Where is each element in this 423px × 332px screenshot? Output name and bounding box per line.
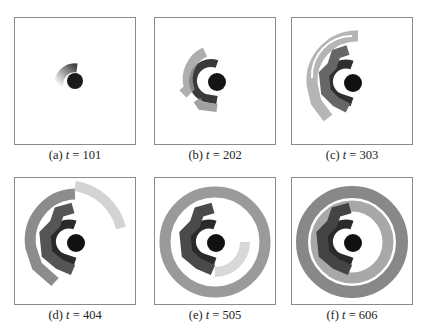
panel-caption: (d) t = 404: [4, 308, 146, 323]
spiral-image: [155, 18, 275, 144]
image-frame: [154, 177, 276, 305]
panel-caption: (a) t = 101: [4, 148, 146, 163]
image-frame: [154, 17, 276, 145]
image-frame: [291, 17, 413, 145]
spiral-image: [155, 178, 275, 304]
image-frame: [291, 177, 413, 305]
image-frame: [14, 177, 136, 305]
image-frame: [14, 17, 136, 145]
panel-caption: (f) t = 606: [281, 308, 423, 323]
panel-caption: (c) t = 303: [281, 148, 423, 163]
panel-caption: (e) t = 505: [144, 308, 286, 323]
spiral-image: [15, 178, 135, 304]
panel-caption: (b) t = 202: [144, 148, 286, 163]
spiral-image: [15, 18, 135, 144]
spiral-image: [292, 18, 412, 144]
spiral-image: [292, 178, 412, 304]
